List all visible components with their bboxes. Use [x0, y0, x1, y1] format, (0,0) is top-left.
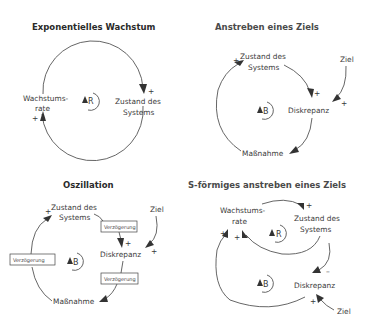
arrowhead-icon [289, 146, 299, 154]
node-action: Maßnahme [242, 149, 284, 158]
polarity-sign: + [306, 201, 312, 210]
link-discrepancy-to-action [295, 118, 312, 150]
delay-label: Verzögerung [104, 224, 136, 231]
node-system-state: Zustand des [115, 97, 161, 106]
delay-label: Verzögerung [13, 257, 45, 264]
diagram-oscillation: Oszillation Zustand des Systems Ziel Dis… [10, 180, 164, 306]
node-goal: Ziel [340, 55, 354, 64]
link-action-to-state [216, 64, 241, 151]
polarity-sign: + [310, 297, 316, 306]
node-action: Maßnahme [53, 297, 95, 306]
link-goal-to-discrepancy [321, 300, 334, 310]
node-growth-rate: Wachstums- [23, 94, 69, 103]
svg-text:B: B [73, 258, 79, 267]
diagram-exponential-growth: Exponentielles Wachstum + + Wachstums- r… [23, 22, 161, 161]
node-system-state: Systems [59, 213, 91, 222]
node-system-state: Zustand des [240, 52, 286, 61]
node-discrepancy: Diskrepanz [288, 106, 329, 115]
reinforcing-loop-icon: R [269, 225, 286, 242]
node-system-state: Systems [300, 225, 332, 234]
polarity-sign: + [151, 247, 157, 256]
svg-text:B: B [263, 280, 269, 289]
node-system-state: Systems [123, 108, 155, 117]
delay-label: Verzögerung [104, 276, 136, 283]
polarity-sign: + [45, 207, 51, 216]
diagram-title: Anstreben eines Ziels [215, 22, 319, 32]
link-goal-to-discrepancy [149, 216, 157, 244]
node-discrepancy: Diskrepanz [100, 250, 141, 259]
polarity-sign: + [234, 233, 240, 242]
arrowhead-icon [99, 295, 108, 302]
node-goal: Ziel [337, 307, 351, 316]
reinforcing-loop-icon: R [82, 93, 99, 110]
link-discrepancy-to-rate [216, 234, 305, 307]
polarity-sign: + [233, 56, 239, 65]
arrowhead-icon [117, 238, 124, 248]
arrowhead-icon [139, 84, 147, 94]
link-rate-to-state [262, 200, 301, 205]
node-system-state: Zustand des [294, 214, 340, 223]
diagram-title: Exponentielles Wachstum [32, 22, 156, 32]
diagram-goal-seeking: Anstreben eines Ziels Zustand des System… [215, 22, 354, 158]
diagram-title: Oszillation [63, 180, 114, 190]
diagram-s-shaped-goal-seeking: S-förmiges anstreben eines Ziels Wachstu… [188, 180, 351, 316]
node-growth-rate: Wachstums- [220, 206, 266, 215]
node-growth-rate: rate [232, 217, 247, 226]
polarity-sign: + [32, 114, 38, 123]
link-state-to-discrepancy [94, 214, 103, 221]
polarity-sign: + [125, 239, 131, 248]
polarity-sign: + [314, 89, 320, 98]
polarity-sign: – [326, 267, 330, 276]
svg-text:B: B [263, 107, 269, 116]
node-discrepancy: Diskrepanz [294, 281, 335, 290]
link-segment [105, 284, 117, 299]
node-system-state: Systems [248, 63, 280, 72]
link-action-to-state [32, 267, 52, 301]
link-state-to-discrepancy [319, 243, 330, 270]
node-growth-rate: rate [35, 104, 50, 113]
node-system-state: Zustand des [51, 203, 97, 212]
arrowhead-icon [332, 94, 341, 102]
causal-loop-diagrams: Exponentielles Wachstum + + Wachstums- r… [0, 0, 369, 327]
balancing-loop-icon: B [257, 102, 273, 119]
link-segment [31, 219, 47, 254]
link-discrepancy-to-action [121, 261, 123, 273]
polarity-sign: + [341, 99, 347, 108]
balancing-loop-icon: B [67, 253, 83, 270]
svg-text:R: R [88, 97, 94, 106]
link-goal-to-discrepancy [336, 66, 346, 98]
node-goal: Ziel [150, 205, 164, 214]
link-rate-to-state [43, 41, 143, 94]
diagram-title: S-förmiges anstreben eines Ziels [188, 180, 346, 190]
link-state-to-rate [246, 235, 320, 254]
polarity-sign: + [148, 87, 154, 96]
arrowhead-icon [297, 203, 304, 210]
arrowhead-icon [307, 88, 314, 98]
balancing-loop-icon: B [257, 275, 273, 292]
svg-text:R: R [276, 230, 282, 239]
polarity-sign: + [220, 229, 226, 238]
link-state-to-discrepancy [284, 65, 310, 92]
